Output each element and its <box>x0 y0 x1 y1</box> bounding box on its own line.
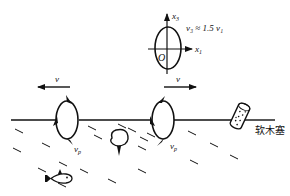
left-particle-velocity-label: vp <box>74 144 81 155</box>
right-orbit-arrow-top <box>158 96 165 103</box>
inset-coordinate-system: x3 x1 O v₃ ≈ 1.5 v₁ <box>148 11 223 74</box>
cork: 软木塞 <box>229 102 285 136</box>
right-orbit: v vp <box>150 74 196 152</box>
fish-icon <box>45 169 72 183</box>
origin-label: O <box>158 52 165 63</box>
right-particle-velocity-label: vp <box>170 141 177 152</box>
left-velocity-label: v <box>55 74 59 84</box>
left-orbit-arrow-top <box>66 95 72 104</box>
water-wave-diagram: x3 x1 O v₃ ≈ 1.5 v₁ v vp v vp <box>0 0 290 196</box>
left-orbit: v vp <box>38 74 81 155</box>
x1-axis-label: x1 <box>194 44 202 55</box>
velocity-relation: v₃ ≈ 1.5 v₁ <box>186 23 223 33</box>
x3-axis-label: x3 <box>171 11 179 22</box>
cork-label: 软木塞 <box>255 124 285 136</box>
floating-blob <box>111 129 128 156</box>
right-velocity-label: v <box>176 74 180 84</box>
